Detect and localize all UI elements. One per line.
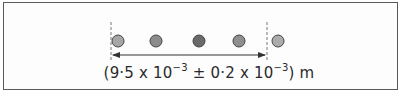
caption-uncertainty: ± 0·2 x 10: [188, 64, 274, 82]
dot-icon: [233, 35, 245, 47]
caption-exponent: −3: [173, 62, 188, 73]
caption-exponent: −3: [273, 62, 288, 73]
dot-icon: [193, 35, 205, 47]
caption-unit: ) m: [289, 64, 315, 82]
arrowhead-right-icon: [258, 52, 266, 58]
dot-icon: [150, 35, 162, 47]
dot-icon: [272, 35, 284, 47]
measurement-caption: (9·5 x 10−3 ± 0·2 x 10−3) m: [0, 64, 418, 82]
dot-icon: [112, 35, 124, 47]
arrowhead-left-icon: [112, 52, 120, 58]
caption-value: (9·5 x 10: [104, 64, 173, 82]
